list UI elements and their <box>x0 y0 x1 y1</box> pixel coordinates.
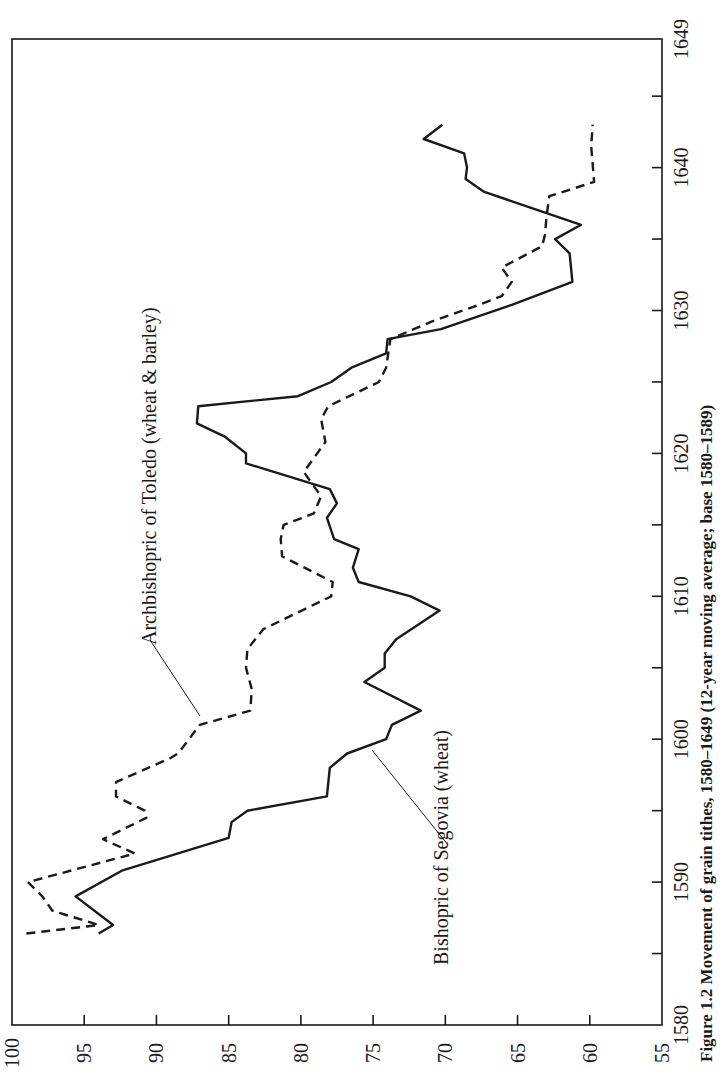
value-tick-label: 70 <box>434 1043 456 1063</box>
year-tick-label: 1620 <box>670 433 692 473</box>
series-layer <box>26 125 594 934</box>
value-tick-label: 80 <box>290 1043 312 1063</box>
year-tick-label: 1649 <box>670 19 692 59</box>
year-tick-label: 1590 <box>670 862 692 902</box>
chart-figure: 1009590858075706560551580159016001610162… <box>0 0 725 1072</box>
value-tick-label: 95 <box>73 1043 95 1063</box>
value-tick-label: 75 <box>362 1043 384 1063</box>
year-tick-label: 1580 <box>670 1005 692 1045</box>
leader-line <box>150 640 200 716</box>
series-labels: Archbishopric of Toledo (wheat & barley)… <box>138 307 453 965</box>
segovia-label: Bishopric of Segovia (wheat) <box>430 730 453 965</box>
value-tick-label: 90 <box>145 1043 167 1063</box>
value-tick-label: 55 <box>651 1043 673 1063</box>
year-tick-label: 1630 <box>670 291 692 331</box>
figure-caption: Figure 1.2 Movement of grain tithes, 158… <box>697 405 716 1062</box>
toledo-label: Archbishopric of Toledo (wheat & barley) <box>138 307 161 645</box>
value-tick-label: 100 <box>1 1038 23 1068</box>
year-tick-label: 1600 <box>670 719 692 759</box>
value-tick-label: 60 <box>579 1043 601 1063</box>
value-tick-label: 85 <box>218 1043 240 1063</box>
value-tick-label: 65 <box>507 1043 529 1063</box>
toledo-series-line <box>26 125 594 934</box>
year-tick-label: 1640 <box>670 148 692 188</box>
year-tick-label: 1610 <box>670 576 692 616</box>
line-chart: 1009590858075706560551580159016001610162… <box>0 0 725 1072</box>
